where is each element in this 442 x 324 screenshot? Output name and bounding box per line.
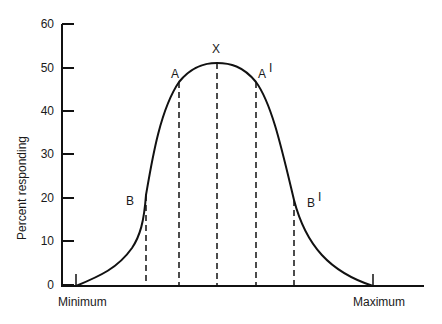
label-b-prime: B [307,196,315,210]
x-max-label: Maximum [353,295,405,309]
label-x: X [212,42,220,56]
label-b: B [126,194,134,208]
y-tick-40: 40 [41,104,55,118]
y-tick-labels: 0 10 20 30 40 50 60 [41,17,55,292]
y-tick-50: 50 [41,61,55,75]
y-tick-10: 10 [41,234,55,248]
y-tick-0: 0 [47,278,54,292]
y-ticks [62,24,74,285]
bell-curve-chart: 0 10 20 30 40 50 60 Percent responding M… [0,0,442,324]
y-tick-20: 20 [41,191,55,205]
label-a-prime-mark: I [269,61,272,75]
y-tick-30: 30 [41,147,55,161]
y-axis-title: Percent responding [15,136,29,240]
label-b-prime-mark: I [318,190,321,204]
x-min-label: Minimum [58,295,107,309]
label-a: A [171,67,179,81]
response-curve [76,63,373,286]
dashed-markers [146,63,294,286]
label-a-prime: A [258,67,266,81]
y-tick-60: 60 [41,17,55,31]
